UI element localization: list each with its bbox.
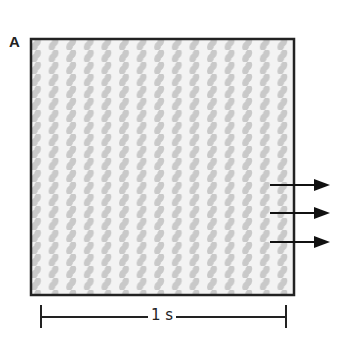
- grating-box: [31, 39, 294, 295]
- scale-bar-label: 1 s: [148, 306, 176, 324]
